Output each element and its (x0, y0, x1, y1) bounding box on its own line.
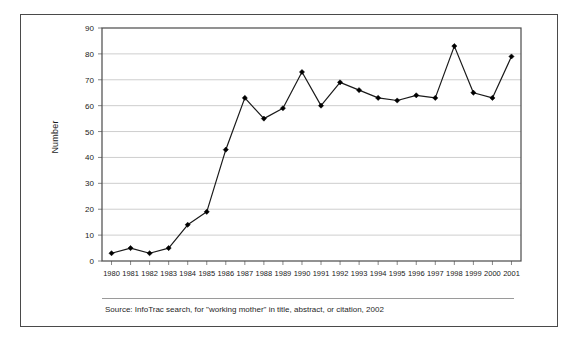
x-tick-label: 1998 (446, 269, 463, 278)
data-point-marker (414, 93, 419, 98)
x-tick-label: 1982 (141, 269, 158, 278)
x-tick-label: 1993 (351, 269, 368, 278)
x-tick-label: 1987 (236, 269, 253, 278)
data-point-marker (509, 54, 514, 59)
x-tick-label: 1990 (294, 269, 311, 278)
data-point-markers-group (109, 44, 514, 256)
data-point-marker (147, 251, 152, 256)
data-point-marker (433, 95, 438, 100)
x-tick-label: 1984 (179, 269, 196, 278)
x-tick-label: 1995 (389, 269, 406, 278)
y-tick-labels-group: 0102030405060708090 (85, 24, 94, 266)
data-point-marker (299, 69, 304, 74)
x-tick-label: 1992 (332, 269, 349, 278)
x-tick-label: 1983 (160, 269, 177, 278)
data-point-marker (452, 44, 457, 49)
data-point-marker (109, 251, 114, 256)
y-tick-label: 30 (85, 179, 94, 188)
x-tick-label: 2001 (503, 269, 520, 278)
x-tick-label: 1980 (103, 269, 120, 278)
y-tick-label: 0 (90, 257, 95, 266)
x-tick-label: 1988 (256, 269, 273, 278)
x-tick-label: 1981 (122, 269, 139, 278)
data-point-marker (223, 147, 228, 152)
y-tick-label: 10 (85, 231, 94, 240)
chart-plot-area: 0102030405060708090 19801981198219831984… (21, 15, 557, 326)
y-tick-label: 80 (85, 50, 94, 59)
x-tick-label: 2000 (484, 269, 501, 278)
x-tick-label: 1989 (275, 269, 292, 278)
data-point-marker (471, 90, 476, 95)
x-tick-marks-group (112, 261, 512, 265)
caption-divider (102, 298, 514, 299)
x-tick-labels-group: 1980198119821983198419851986198719881989… (103, 269, 520, 278)
y-tick-label: 50 (85, 128, 94, 137)
figure-container: Number 0102030405060708090 1980198119821… (0, 0, 577, 342)
data-series-line (112, 46, 512, 253)
x-tick-label: 1986 (217, 269, 234, 278)
y-tick-label: 90 (85, 24, 94, 33)
chart-frame: Number 0102030405060708090 1980198119821… (20, 14, 558, 327)
x-tick-label: 1996 (408, 269, 425, 278)
data-point-marker (128, 245, 133, 250)
x-tick-label: 1999 (465, 269, 482, 278)
data-point-marker (357, 88, 362, 93)
gridlines-group (102, 54, 521, 235)
line-chart-svg: 0102030405060708090 19801981198219831984… (21, 15, 557, 295)
source-caption: Source: InfoTrac search, for "working mo… (105, 304, 525, 316)
x-tick-label: 1997 (427, 269, 444, 278)
data-point-marker (490, 95, 495, 100)
y-tick-label: 40 (85, 153, 94, 162)
x-tick-label: 1994 (370, 269, 387, 278)
x-tick-label: 1985 (198, 269, 215, 278)
x-tick-label: 1991 (313, 269, 330, 278)
y-tick-label: 20 (85, 205, 94, 214)
y-tick-label: 70 (85, 76, 94, 85)
plot-border (102, 28, 521, 261)
y-tick-label: 60 (85, 102, 94, 111)
data-point-marker (280, 106, 285, 111)
data-point-marker (376, 95, 381, 100)
data-point-marker (395, 98, 400, 103)
